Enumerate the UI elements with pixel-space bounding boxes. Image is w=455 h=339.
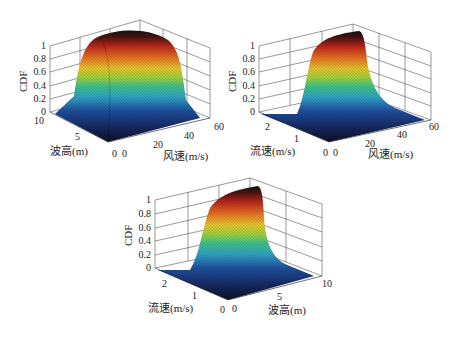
surface-plot-2: 1 0.8 0.6 0.4 0.2 0 CDF 2 1 0 流速(m/s) 0 … xyxy=(225,0,455,170)
z-axis-label: CDF xyxy=(122,225,134,246)
tick-label: 0.6 xyxy=(243,66,256,77)
tick-label: 10 xyxy=(34,115,44,126)
tick-label: 0 xyxy=(250,106,255,117)
surface-plot-1: 1 0.8 0.6 0.4 0.2 0 CDF 10 5 0 波高(m) 0 2… xyxy=(0,0,230,170)
tick-label: 20 xyxy=(153,139,163,150)
tick-label: 1 xyxy=(192,290,197,301)
chart-panel-current-wind: 1 0.8 0.6 0.4 0.2 0 CDF 2 1 0 流速(m/s) 0 … xyxy=(225,0,455,170)
tick-label: 1 xyxy=(41,40,46,51)
surface-plot-3: 1 0.8 0.6 0.4 0.2 0 CDF 2 1 0 流速(m/s) 0 … xyxy=(110,170,350,339)
tick-label: 0 xyxy=(323,147,328,158)
right-axis-label: 风速(m/s) xyxy=(163,150,209,163)
tick-label: 10 xyxy=(322,278,332,289)
z-axis-label: CDF xyxy=(226,71,238,92)
tick-label: 0 xyxy=(112,148,117,159)
tick-label: 2 xyxy=(162,278,167,289)
tick-label: 0.4 xyxy=(34,80,47,91)
tick-label: 40 xyxy=(184,130,194,141)
tick-label: 0.6 xyxy=(139,222,152,233)
tick-label: 60 xyxy=(214,121,224,132)
right-axis-label: 波高(m) xyxy=(268,303,306,317)
tick-label: 2 xyxy=(265,121,270,132)
tick-label: 0.4 xyxy=(243,80,256,91)
chart-panel-current-wave: 1 0.8 0.6 0.4 0.2 0 CDF 2 1 0 流速(m/s) 0 … xyxy=(110,170,350,339)
tick-label: 40 xyxy=(397,129,407,140)
tick-label: 0.8 xyxy=(34,53,47,64)
tick-label: 60 xyxy=(429,121,439,132)
tick-label: 0.2 xyxy=(34,93,47,104)
tick-label: 0 xyxy=(146,262,151,273)
tick-label: 1 xyxy=(294,133,299,144)
tick-label: 0 xyxy=(333,147,338,158)
z-ticks: 1 0.8 0.6 0.4 0.2 0 xyxy=(34,40,47,117)
tick-label: 0.2 xyxy=(139,249,152,260)
left-axis-label: 波高(m) xyxy=(50,144,88,158)
tick-label: 5 xyxy=(75,131,80,142)
tick-label: 0 xyxy=(220,304,225,315)
right-axis-label: 风速(m/s) xyxy=(368,148,414,161)
chart-panel-wave-wind: 1 0.8 0.6 0.4 0.2 0 CDF 10 5 0 波高(m) 0 2… xyxy=(0,0,230,170)
tick-label: 1 xyxy=(250,40,255,51)
tick-label: 1 xyxy=(146,194,151,205)
tick-label: 0 xyxy=(122,148,127,159)
tick-label: 0.8 xyxy=(243,53,256,64)
left-axis-label: 流速(m/s) xyxy=(250,144,296,158)
tick-label: 0 xyxy=(232,303,237,314)
z-ticks: 1 0.8 0.6 0.4 0.2 0 xyxy=(139,194,152,273)
tick-label: 5 xyxy=(277,291,282,302)
tick-label: 0.4 xyxy=(139,235,152,246)
tick-label: 0.8 xyxy=(139,208,152,219)
z-ticks: 1 0.8 0.6 0.4 0.2 0 xyxy=(243,40,256,117)
z-axis-label: CDF xyxy=(17,71,29,92)
tick-label: 0.6 xyxy=(34,66,47,77)
left-axis-label: 流速(m/s) xyxy=(148,301,194,315)
tick-label: 0.2 xyxy=(243,93,256,104)
